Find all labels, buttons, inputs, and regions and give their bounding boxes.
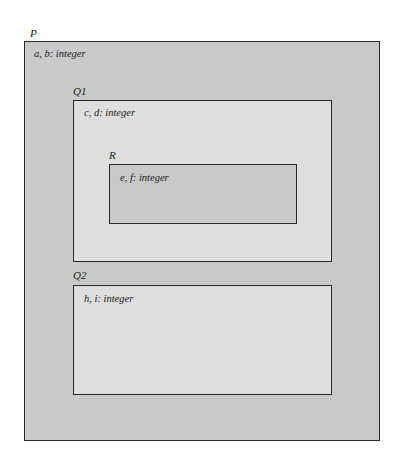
declaration-q1: c, d: integer bbox=[84, 107, 135, 118]
scope-label-r: R bbox=[109, 149, 116, 161]
declaration-r: e, f: integer bbox=[120, 172, 169, 183]
scope-label-q2: Q2 bbox=[73, 269, 86, 281]
scope-box-r: e, f: integer bbox=[109, 164, 297, 224]
scope-label-q1: Q1 bbox=[73, 85, 86, 97]
scope-box-q2: h, i: integer bbox=[73, 285, 332, 395]
declaration-p: a, b: integer bbox=[34, 48, 86, 59]
scope-label-p: P bbox=[30, 27, 37, 39]
declaration-q2: h, i: integer bbox=[84, 293, 133, 304]
